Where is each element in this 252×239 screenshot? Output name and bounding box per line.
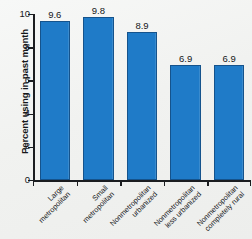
bar[interactable]: 9.8 (83, 17, 114, 180)
plot-area: 0246810 9.69.88.96.96.9 (33, 14, 251, 180)
bar[interactable]: 8.9 (127, 32, 158, 180)
y-tick-label: 4 (25, 107, 30, 118)
x-axis-labels: LargemetropolitanSmallmetropolitanNonmet… (33, 184, 251, 239)
y-tick-label: 2 (25, 140, 30, 151)
y-tick-label: 6 (25, 74, 30, 85)
y-tick-label: 0 (25, 174, 30, 185)
bar-value-label: 9.6 (48, 9, 61, 20)
bar[interactable]: 6.9 (170, 65, 201, 180)
bar-value-label: 6.9 (179, 53, 192, 64)
bar-chart: Percent using in past month 0246810 9.69… (0, 0, 252, 239)
bar-value-label: 8.9 (135, 20, 148, 31)
bar[interactable]: 6.9 (214, 65, 245, 180)
bar[interactable]: 9.6 (40, 21, 71, 180)
y-tick-label: 8 (25, 41, 30, 52)
bar-value-label: 9.8 (92, 5, 105, 16)
bar-value-label: 6.9 (223, 53, 236, 64)
y-axis-line (33, 14, 35, 181)
y-tick-label: 10 (19, 8, 30, 19)
x-axis-line (33, 180, 251, 182)
